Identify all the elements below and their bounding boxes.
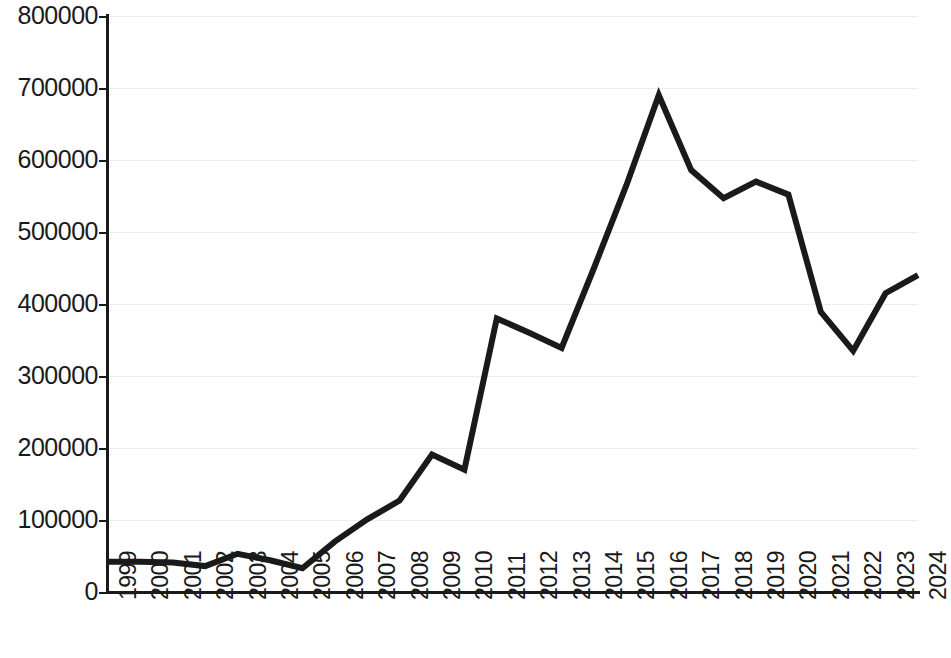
y-axis-tick-mark [99, 520, 107, 522]
y-axis-tick-mark [99, 376, 107, 378]
y-axis-tick-mark [99, 592, 107, 594]
y-axis-tick-mark [99, 88, 107, 90]
y-axis-tick-mark [99, 16, 107, 18]
series-1-line [108, 95, 918, 568]
y-axis-tick-mark [99, 160, 107, 162]
y-axis-tick-mark [99, 232, 107, 234]
y-axis-tick-mark [99, 304, 107, 306]
y-axis-tick-mark [99, 448, 107, 450]
